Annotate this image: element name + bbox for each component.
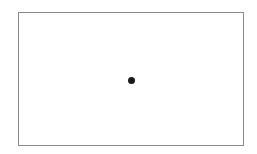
point-marker	[128, 77, 135, 84]
